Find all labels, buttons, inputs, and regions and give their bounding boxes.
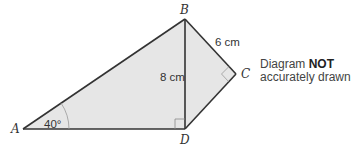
vertex-label-D: D xyxy=(179,133,190,147)
shape-fill xyxy=(23,19,236,129)
note-suffix: accurately drawn xyxy=(260,71,351,84)
length-label-BC: 6 cm xyxy=(215,36,240,48)
angle-label-A: 40° xyxy=(44,118,61,130)
vertex-label-C: C xyxy=(241,67,250,81)
vertex-label-A: A xyxy=(10,122,20,136)
length-label-BD: 8 cm xyxy=(160,71,185,83)
note-prefix: Diagram xyxy=(260,57,309,71)
not-to-scale-note: Diagram NOT accurately drawn xyxy=(260,58,351,84)
note-emphasis: NOT xyxy=(309,57,334,71)
vertex-label-B: B xyxy=(179,3,189,17)
